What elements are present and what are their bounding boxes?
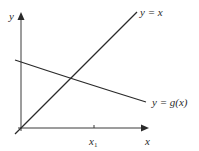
y-axis-arrow-icon bbox=[18, 12, 25, 20]
g-curve bbox=[15, 60, 146, 102]
fixed-point-diagram: y x x1 y = x y = g(x) bbox=[0, 0, 199, 151]
x-axis-label: x bbox=[144, 135, 150, 147]
y-axis-label: y bbox=[8, 10, 14, 22]
g-curve-label: y = g(x) bbox=[151, 96, 188, 109]
identity-line-label: y = x bbox=[139, 6, 163, 18]
identity-line bbox=[15, 12, 137, 134]
x-axis-arrow-icon bbox=[141, 125, 149, 132]
x1-label: x1 bbox=[88, 135, 98, 149]
